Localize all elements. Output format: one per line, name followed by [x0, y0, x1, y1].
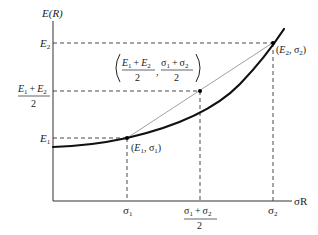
svg-text:2: 2: [135, 72, 140, 83]
point-e1-s1: [125, 136, 129, 140]
y-tick-midpoint: E1+E2 2: [17, 83, 50, 109]
svg-text:σ1+σ2: σ1+σ2: [184, 205, 212, 218]
svg-text:E1+E2: E1+E2: [121, 57, 151, 70]
svg-text:,: ,: [156, 66, 159, 77]
y-tick-e2: E2: [39, 37, 51, 51]
svg-text:2: 2: [31, 98, 36, 109]
svg-text:2: 2: [197, 220, 202, 231]
diagram-canvas: E(R) E2 E1+E2 2 E1 σ1 σ1+σ2 2 σ2 σR (E1,…: [0, 0, 318, 235]
svg-text:2: 2: [174, 72, 179, 83]
point-label-e2-s2: (E2, σ2): [276, 44, 306, 57]
svg-text:σ1+σ2: σ1+σ2: [161, 57, 189, 70]
y-axis-label: E(R): [41, 7, 63, 20]
x-tick-s1: σ1: [123, 204, 133, 218]
point-label-midpoint: E1+E2 2 , σ1+σ2 2: [116, 54, 200, 83]
x-tick-midpoint: σ1+σ2 2: [184, 205, 217, 231]
x-tick-s2: σ2: [268, 204, 278, 218]
y-tick-e1: E1: [39, 132, 51, 146]
convex-curve: [53, 29, 284, 147]
svg-text:E1+E2: E1+E2: [17, 83, 47, 96]
chord-line: [127, 40, 277, 138]
point-midpoint: [198, 89, 202, 93]
point-label-e1-s1: (E1, σ1): [131, 142, 161, 155]
point-e2-s2: [271, 41, 275, 45]
x-axis-label: σR: [294, 195, 308, 207]
